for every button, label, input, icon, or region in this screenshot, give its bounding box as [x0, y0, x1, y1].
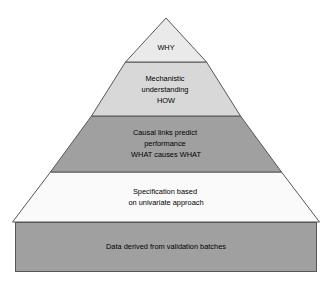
- pyramid-tier-why: WHY: [126, 18, 207, 62]
- pyramid-tier-specification: Specification based on univariate approa…: [13, 172, 320, 222]
- tier-causal-links-line-3: WHAT causes WHAT: [131, 150, 201, 159]
- tier-mechanistic-understanding-line-1: Mechanistic: [145, 74, 184, 83]
- tier-why-line-1: WHY: [157, 43, 174, 52]
- tier-data-foundation-label: Data derived from validation batches: [106, 242, 226, 251]
- pyramid-diagram: Data derived from validation batches Spe…: [0, 0, 332, 285]
- tier-mechanistic-understanding-line-3: HOW: [157, 96, 175, 105]
- tier-why-label: WHY: [157, 43, 174, 52]
- tier-data-foundation-line-1: Data derived from validation batches: [106, 242, 226, 251]
- tier-causal-links-line-2: performance: [144, 139, 186, 148]
- tier-why-shape: [126, 18, 207, 62]
- pyramid-svg-canvas: Data derived from validation batches Spe…: [0, 0, 332, 285]
- pyramid-tier-causal-links: Causal links predict performance WHAT ca…: [51, 116, 282, 172]
- tier-specification-line-2: on univariate approach: [128, 198, 203, 207]
- pyramid-tier-mechanistic-understanding: Mechanistic understanding HOW: [92, 62, 241, 116]
- tier-specification-line-1: Specification based: [133, 187, 197, 196]
- pyramid-tier-data-foundation: Data derived from validation batches: [16, 223, 317, 272]
- tier-mechanistic-understanding-line-2: understanding: [142, 85, 189, 94]
- tier-causal-links-line-1: Causal links predict: [133, 128, 197, 137]
